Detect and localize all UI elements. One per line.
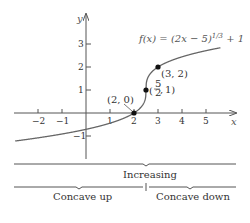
- concave-down-bracket: [149, 187, 236, 189]
- svg-text:1: 1: [107, 116, 113, 126]
- x-axis-label: x: [231, 116, 237, 127]
- leader-line: [124, 104, 132, 111]
- svg-text:,: ,: [160, 84, 163, 95]
- svg-text:−1: −1: [56, 116, 69, 126]
- graph: x y −2 −1 1 2 3 4 5 −1 1 2 3 (2, 0) (3, …: [0, 0, 250, 223]
- increasing-label: Increasing: [123, 169, 177, 180]
- label-point-2-0: (2, 0): [107, 94, 134, 105]
- svg-text:2: 2: [131, 116, 137, 126]
- svg-text:3: 3: [155, 116, 161, 126]
- point-5-2-1: [143, 87, 148, 92]
- svg-text:−1: −1: [73, 131, 86, 141]
- label-point-5-2-1: ( 5 2 , 1): [149, 78, 175, 98]
- svg-text:2: 2: [78, 62, 84, 72]
- concave-up-bracket: [14, 187, 143, 189]
- point-3-2: [155, 64, 160, 69]
- concave-down-label: Concave down: [156, 191, 230, 202]
- y-axis-label: y: [76, 13, 83, 24]
- svg-text:(: (: [149, 85, 153, 96]
- increasing-bracket: [14, 164, 236, 166]
- svg-text:4: 4: [179, 116, 185, 126]
- svg-text:3: 3: [78, 39, 84, 49]
- concave-up-label: Concave up: [53, 191, 112, 202]
- svg-text:1): 1): [165, 84, 175, 95]
- svg-text:5: 5: [203, 116, 209, 126]
- label-point-3-2: (3, 2): [161, 68, 188, 79]
- svg-text:−2: −2: [32, 116, 45, 126]
- y-ticks: −1 1 2 3: [73, 39, 91, 141]
- function-label: f(x) = (2x − 5)1/3 + 1: [138, 32, 244, 44]
- x-ticks: −2 −1 1 2 3 4 5: [32, 109, 209, 126]
- svg-text:1: 1: [78, 85, 84, 95]
- point-2-0: [131, 110, 136, 115]
